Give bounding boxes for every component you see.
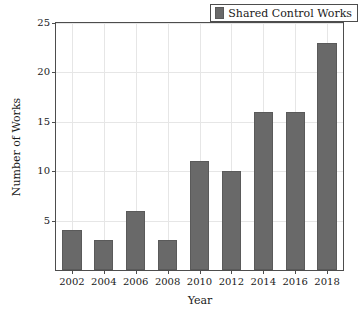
bar bbox=[158, 240, 177, 270]
x-tick-label: 2008 bbox=[155, 277, 180, 287]
x-axis-label: Year bbox=[188, 294, 213, 307]
y-tick-label: 25 bbox=[37, 18, 50, 28]
bar bbox=[222, 171, 241, 270]
legend-entry-label: Shared Control Works bbox=[228, 8, 352, 19]
x-tick-mark bbox=[231, 270, 232, 274]
x-tick-mark bbox=[104, 270, 105, 274]
bar bbox=[286, 112, 305, 270]
x-tick-label: 2016 bbox=[282, 277, 307, 287]
y-axis-label: Number of Works bbox=[10, 98, 23, 196]
x-tick-label: 2014 bbox=[251, 277, 276, 287]
bar bbox=[317, 43, 336, 270]
x-tick-mark bbox=[72, 270, 73, 274]
y-tick-label: 15 bbox=[37, 117, 50, 127]
x-tick-mark bbox=[263, 270, 264, 274]
x-tick-label: 2006 bbox=[123, 277, 148, 287]
bar-series-shared-control-works bbox=[56, 23, 343, 270]
x-tick-mark bbox=[295, 270, 296, 274]
bar-chart-figure: Number of Works Year 510152025 200220042… bbox=[0, 0, 360, 325]
x-tick-mark bbox=[327, 270, 328, 274]
bar bbox=[254, 112, 273, 270]
x-tick-label: 2004 bbox=[91, 277, 116, 287]
x-tick-mark bbox=[168, 270, 169, 274]
x-tick-label: 2012 bbox=[219, 277, 244, 287]
x-tick-label: 2018 bbox=[314, 277, 339, 287]
bar bbox=[94, 240, 113, 270]
bar bbox=[126, 211, 145, 270]
legend-swatch-icon bbox=[215, 7, 224, 19]
y-tick-label: 10 bbox=[37, 166, 50, 176]
x-tick-label: 2010 bbox=[187, 277, 212, 287]
x-tick-mark bbox=[136, 270, 137, 274]
y-tick-label: 20 bbox=[37, 67, 50, 77]
plot-area: 510152025 200220042006200820102012201420… bbox=[55, 22, 344, 271]
bar bbox=[62, 230, 81, 270]
bar bbox=[190, 161, 209, 270]
chart-legend: Shared Control Works bbox=[210, 4, 358, 22]
x-tick-mark bbox=[200, 270, 201, 274]
x-tick-label: 2002 bbox=[59, 277, 84, 287]
y-tick-label: 5 bbox=[44, 216, 50, 226]
